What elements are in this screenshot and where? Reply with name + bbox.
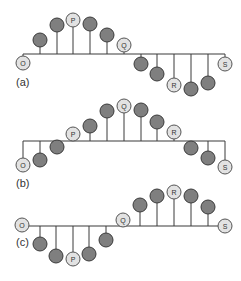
ball [133,198,147,212]
ball [50,140,64,154]
ball [99,233,113,247]
ball-label: R [171,129,176,136]
ball-label: O [20,60,26,67]
ball-label: P [71,256,76,263]
ball-label: P [71,131,76,138]
panel-c: OPQRS [15,185,232,266]
ball [150,67,164,81]
ball-label: R [171,189,176,196]
ball [100,28,114,42]
ball-label: Q [121,103,127,111]
ball [201,200,215,214]
ball [100,104,114,118]
ball [150,189,164,203]
ball-label: S [223,223,228,230]
panel-b: OPQRS [16,99,232,174]
ball-label: Q [120,217,126,225]
wave-diagram: OPQRSOPQRSOPQRS [0,0,241,281]
ball [150,115,164,129]
ball [83,119,97,133]
panel-label-c: (c) [16,236,29,248]
ball-label: R [171,82,176,89]
ball [184,82,198,96]
ball [82,247,96,261]
panel-label-b: (b) [16,177,29,189]
ball [201,151,215,165]
ball-label: O [20,162,26,169]
ball [134,103,148,117]
ball [49,249,63,263]
ball-label: P [71,17,76,24]
ball [201,76,215,90]
panel-label-a: (a) [16,76,29,88]
ball [184,141,198,155]
ball-label: S [223,164,228,171]
ball [50,18,64,32]
ball-label: S [223,61,228,68]
ball-label: O [19,222,25,229]
ball [83,17,97,31]
ball [33,153,47,167]
panel-a: OPQRS [16,13,232,96]
ball [134,57,148,71]
ball [33,237,47,251]
ball [184,189,198,203]
ball-label: Q [121,42,127,50]
ball [33,33,47,47]
